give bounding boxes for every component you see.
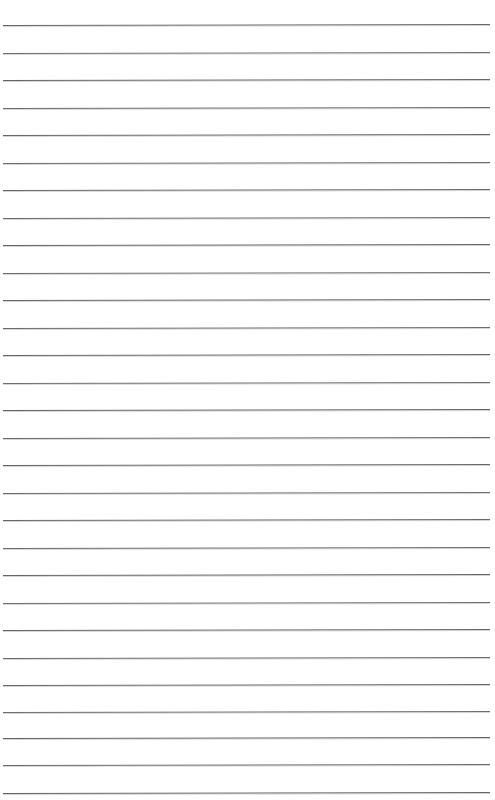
ruled-line — [3, 657, 490, 659]
ruled-line — [3, 382, 490, 384]
ruled-line — [3, 79, 490, 81]
ruled-line — [3, 684, 490, 686]
lined-paper-page: Blank ruled notepad page — [0, 0, 495, 800]
ruled-line — [3, 162, 490, 164]
ruled-line — [3, 629, 490, 631]
ruled-line — [3, 107, 490, 109]
ruled-line — [3, 602, 490, 604]
ruled-line — [3, 189, 490, 191]
ruled-line — [3, 327, 490, 329]
ruled-line — [3, 24, 490, 26]
ruled-line — [3, 272, 490, 274]
ruled-line — [3, 737, 490, 739]
ruled-line — [3, 574, 490, 576]
ruled-line — [3, 244, 490, 246]
ruled-line — [3, 492, 490, 494]
ruled-line — [3, 547, 490, 549]
ruled-line — [3, 354, 490, 356]
ruled-line — [3, 519, 490, 521]
ruled-line — [3, 52, 490, 54]
ruled-line — [3, 217, 490, 219]
ruled-line — [3, 437, 490, 439]
ruled-line — [3, 711, 490, 713]
ruled-line — [3, 464, 490, 466]
ruled-line — [3, 134, 490, 136]
ruled-line — [3, 792, 490, 794]
ruled-line — [3, 409, 490, 411]
ruled-line — [3, 299, 490, 301]
ruled-line — [3, 764, 490, 766]
